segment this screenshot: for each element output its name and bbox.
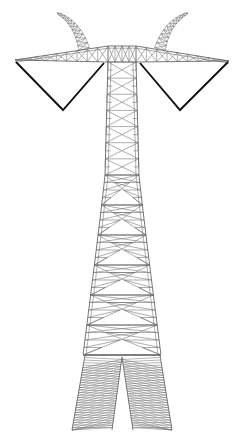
drawing-canvas [0, 0, 244, 436]
background [0, 0, 244, 436]
transmission-pylon-illustration [0, 0, 244, 436]
